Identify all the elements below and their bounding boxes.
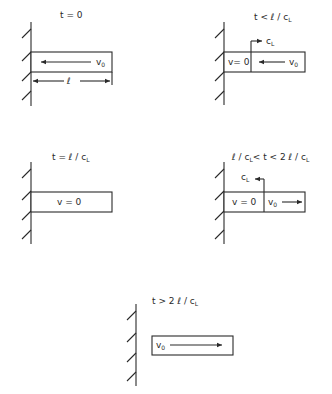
panel-t-between: ℓ / cL< t < 2 ℓ / cL cL v = 0 v0 [215,152,310,244]
fixed-wall-icon [127,304,136,386]
fixed-wall-icon [215,22,224,105]
bar-velocity-label: v = 0 [57,197,82,207]
length-dimension: ℓ [33,72,112,86]
stopped-region-label: v = 0 [232,197,257,207]
length-label: ℓ [66,76,71,86]
panel-t-greater-than-2l-over-cl: t > 2 ℓ / cL v0 [127,296,233,386]
fixed-wall-icon [22,162,31,244]
fixed-wall-icon [215,162,224,244]
panel-condition-label: t > 2 ℓ / cL [152,296,199,307]
wave-speed-label: cL [241,172,250,183]
panel-t-less-than-l-over-cl: t < ℓ / cL cL v= 0 v0 [215,12,305,105]
panel-condition-label: t = ℓ / cL [52,152,90,163]
stopped-region-label: v= 0 [228,57,250,67]
panel-t-equals-l-over-cl: t = ℓ / cL v = 0 [22,152,112,244]
bar-impact-diagram: t = 0 v0 ℓ t < ℓ / cL cL [0,0,332,394]
fixed-wall-icon [22,22,31,106]
wave-speed-label: cL [266,36,275,47]
panel-t-zero: t = 0 v0 ℓ [22,10,112,106]
panel-condition-label: t = 0 [60,10,83,20]
panel-condition-label: t < ℓ / cL [254,12,292,23]
panel-condition-label: ℓ / cL< t < 2 ℓ / cL [231,152,310,163]
